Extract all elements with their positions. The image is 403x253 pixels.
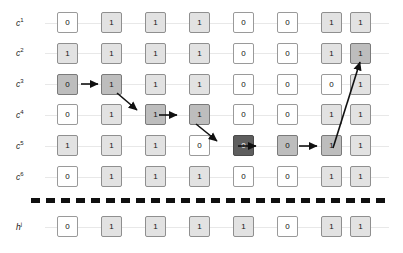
cell-c5-col1[interactable]: 1 [57, 135, 78, 156]
cell-c6-col2[interactable]: 1 [101, 166, 122, 187]
cell-hj-col6[interactable]: 0 [277, 216, 298, 237]
cell-c4-col7[interactable]: 1 [321, 104, 342, 125]
row-label-c3-sup: 3 [20, 78, 23, 84]
cell-c3-col7[interactable]: 0 [321, 74, 342, 95]
cell-c3-col8[interactable]: 1 [350, 74, 371, 95]
cell-c3-col6[interactable]: 0 [277, 74, 298, 95]
cell-c2-col7[interactable]: 1 [321, 43, 342, 64]
cell-c3-col1[interactable]: 0 [57, 74, 78, 95]
cell-c5-col3[interactable]: 1 [145, 135, 166, 156]
cell-c1-col6[interactable]: 0 [277, 12, 298, 33]
cell-c2-col1[interactable]: 1 [57, 43, 78, 64]
cell-c6-col3[interactable]: 1 [145, 166, 166, 187]
cell-c3-col5[interactable]: 0 [233, 74, 254, 95]
cell-c4-col6[interactable]: 0 [277, 104, 298, 125]
cell-c5-col4[interactable]: 0 [189, 135, 210, 156]
cell-c6-col1[interactable]: 0 [57, 166, 78, 187]
row-label-c5-sup: 5 [20, 140, 23, 146]
row-label-c4-sup: 4 [20, 109, 23, 115]
cell-hj-col8[interactable]: 1 [350, 216, 371, 237]
cell-c2-col3[interactable]: 1 [145, 43, 166, 64]
cell-c4-col3[interactable]: 1 [145, 104, 166, 125]
row-label-c1: c1 [16, 18, 42, 28]
cell-c5-col5[interactable]: 0 [233, 135, 254, 156]
cell-hj-col7[interactable]: 1 [321, 216, 342, 237]
cell-c1-col4[interactable]: 1 [189, 12, 210, 33]
row-label-hj: hj [16, 222, 42, 232]
row-label-c1-sup: 1 [20, 17, 23, 23]
cell-c2-col2[interactable]: 1 [101, 43, 122, 64]
cell-c1-col2[interactable]: 1 [101, 12, 122, 33]
row-label-c6-sup: 6 [20, 171, 23, 177]
cell-c4-col2[interactable]: 1 [101, 104, 122, 125]
cell-c2-col6[interactable]: 0 [277, 43, 298, 64]
row-label-c6: c6 [16, 172, 42, 182]
cell-hj-col2[interactable]: 1 [101, 216, 122, 237]
row-label-c2: c2 [16, 48, 42, 58]
cell-c3-col2[interactable]: 1 [101, 74, 122, 95]
cell-c6-col5[interactable]: 0 [233, 166, 254, 187]
cell-c4-col1[interactable]: 0 [57, 104, 78, 125]
cell-c4-col4[interactable]: 1 [189, 104, 210, 125]
cell-hj-col5[interactable]: 1 [233, 216, 254, 237]
cell-hj-col3[interactable]: 1 [145, 216, 166, 237]
cell-hj-col4[interactable]: 1 [189, 216, 210, 237]
cell-c2-col8[interactable]: 1 [350, 43, 371, 64]
cell-c2-col5[interactable]: 0 [233, 43, 254, 64]
cell-hj-col1[interactable]: 0 [57, 216, 78, 237]
cell-c1-col8[interactable]: 1 [350, 12, 371, 33]
cell-c1-col1[interactable]: 0 [57, 12, 78, 33]
cell-c5-col8[interactable]: 1 [350, 135, 371, 156]
cell-c2-col4[interactable]: 1 [189, 43, 210, 64]
cell-c3-col4[interactable]: 1 [189, 74, 210, 95]
row-label-c4: c4 [16, 110, 42, 120]
cell-c6-col7[interactable]: 1 [321, 166, 342, 187]
cell-c4-col5[interactable]: 0 [233, 104, 254, 125]
row-label-c5: c5 [16, 141, 42, 151]
diagram-canvas: c1 c2 c3 c4 c5 c6 hj 0111001111110011011… [0, 0, 403, 253]
cell-c5-col7[interactable]: 1 [321, 135, 342, 156]
cell-c6-col4[interactable]: 1 [189, 166, 210, 187]
row-label-c3: c3 [16, 79, 42, 89]
cell-c5-col2[interactable]: 1 [101, 135, 122, 156]
dashed-separator-line [31, 198, 390, 203]
row-label-c2-sup: 2 [20, 47, 23, 53]
cell-c1-col3[interactable]: 1 [145, 12, 166, 33]
cell-c6-col6[interactable]: 0 [277, 166, 298, 187]
cell-c4-col8[interactable]: 1 [350, 104, 371, 125]
cell-c1-col7[interactable]: 1 [321, 12, 342, 33]
cell-c6-col8[interactable]: 1 [350, 166, 371, 187]
cell-c3-col3[interactable]: 1 [145, 74, 166, 95]
cell-c5-col6[interactable]: 0 [277, 135, 298, 156]
cell-c1-col5[interactable]: 0 [233, 12, 254, 33]
row-label-hj-sup: j [21, 221, 22, 227]
